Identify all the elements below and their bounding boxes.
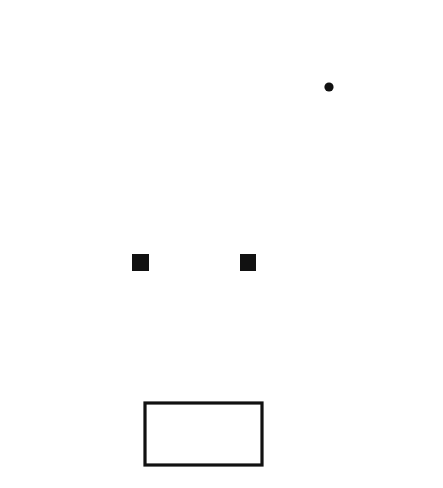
diagram-canvas	[0, 0, 443, 488]
right-transducer	[240, 254, 256, 271]
sound-source-point	[324, 82, 333, 91]
robot-sound-localization-diagram	[0, 0, 443, 488]
microprocessor-box	[145, 403, 262, 465]
left-transducer	[132, 254, 149, 271]
